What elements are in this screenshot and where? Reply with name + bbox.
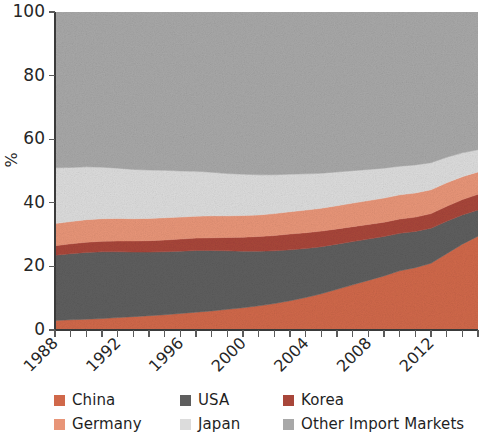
y-tick-label: 40 — [23, 192, 45, 212]
area-bands-group — [55, 12, 478, 330]
legend-label-germany: Germany — [72, 415, 142, 433]
x-axis-ticks — [55, 330, 478, 337]
legend-swatch-usa — [180, 395, 191, 406]
y-tick-label: 0 — [34, 319, 45, 339]
legend-swatch-china — [54, 395, 65, 406]
x-tick-label: 2000 — [208, 333, 250, 375]
legend-item-usa[interactable]: USA — [180, 391, 283, 409]
legend-label-china: China — [72, 391, 115, 409]
x-tick-label: 2004 — [270, 333, 312, 375]
legend-item-germany[interactable]: Germany — [54, 415, 180, 433]
y-tick-label: 80 — [23, 65, 45, 85]
legend-label-korea: Korea — [301, 391, 344, 409]
legend-label-other-import-markets: Other Import Markets — [301, 415, 464, 433]
y-tick-label: 20 — [23, 255, 45, 275]
x-tick-label: 1988 — [20, 333, 62, 375]
legend-swatch-korea — [283, 395, 294, 406]
chart-legend: China USA Korea Germany Japan Other — [0, 385, 486, 439]
legend-swatch-germany — [54, 419, 65, 430]
x-axis-tick-labels: 1988199219962000200420082012 — [20, 333, 438, 375]
y-axis-tick-labels: 020406080100 — [13, 1, 45, 339]
legend-label-usa: USA — [198, 391, 229, 409]
y-tick-label: 100 — [13, 1, 45, 21]
legend-item-other-import-markets[interactable]: Other Import Markets — [283, 415, 464, 433]
y-tick-label: 60 — [23, 128, 45, 148]
x-tick-label: 1996 — [145, 333, 187, 375]
legend-item-china[interactable]: China — [54, 391, 180, 409]
area-band-other-import-markets — [55, 12, 478, 175]
stacked-area-chart: 020406080100 198819921996200020042008201… — [0, 0, 486, 439]
chart-plot-svg: 020406080100 198819921996200020042008201… — [0, 0, 486, 385]
legend-item-japan[interactable]: Japan — [180, 415, 283, 433]
legend-swatch-other-import-markets — [283, 419, 294, 430]
y-axis-title: % — [2, 152, 21, 167]
x-tick-label: 2012 — [396, 333, 438, 375]
legend-label-japan: Japan — [198, 415, 240, 433]
y-axis-ticks — [49, 12, 55, 330]
legend-swatch-japan — [180, 419, 191, 430]
legend-row-1: China USA Korea — [54, 388, 486, 412]
x-tick-label: 1992 — [82, 333, 124, 375]
legend-item-korea[interactable]: Korea — [283, 391, 344, 409]
legend-row-2: Germany Japan Other Import Markets — [54, 412, 486, 436]
x-tick-label: 2008 — [333, 333, 375, 375]
